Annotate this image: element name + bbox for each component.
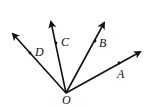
point-d-dot: [29, 52, 32, 55]
point-a-dot: [118, 62, 121, 65]
point-b-dot: [94, 40, 97, 43]
ray-od: [13, 34, 66, 93]
label-o: O: [62, 94, 71, 106]
point-c-dot: [55, 42, 58, 45]
rays-figure: [0, 0, 156, 107]
angle-diagram: O A B C D: [0, 0, 156, 107]
label-a: A: [117, 68, 124, 80]
label-d: D: [35, 46, 44, 58]
label-c: C: [61, 36, 69, 48]
ray-oc: [51, 22, 66, 93]
label-b: B: [99, 37, 106, 49]
